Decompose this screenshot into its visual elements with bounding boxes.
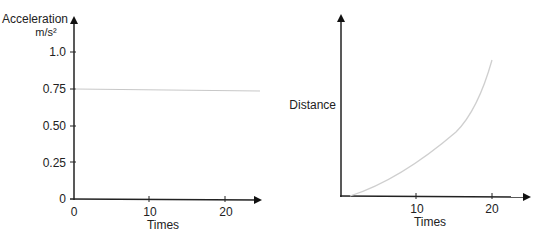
x-tick-20: 20 [219, 205, 233, 219]
distance-curve [350, 60, 492, 196]
x-axis-label: Times [147, 218, 179, 231]
y-tick-0: 0 [59, 192, 66, 206]
x-tick-10: 10 [410, 202, 424, 216]
charts-canvas: 1.0 0.75 0.50 0.25 0 0 10 20 Acceleratio… [0, 0, 533, 231]
x-axis [340, 196, 527, 197]
x-tick-10: 10 [143, 205, 157, 219]
x-axis-label: Times [414, 215, 446, 229]
y-tick-025: 0.25 [43, 156, 67, 170]
distance-chart: 10 20 Distance Times [289, 18, 527, 229]
acceleration-line [75, 89, 260, 91]
y-tick-050: 0.50 [43, 119, 67, 133]
y-axis-label: Acceleration [2, 12, 68, 26]
y-axis-unit: m/s² [35, 26, 57, 38]
y-tick-075: 0.75 [43, 82, 67, 96]
y-tick-1: 1.0 [49, 45, 66, 59]
x-tick-0: 0 [71, 205, 78, 219]
acceleration-chart: 1.0 0.75 0.50 0.25 0 0 10 20 Acceleratio… [2, 12, 260, 231]
x-axis [70, 199, 258, 200]
x-tick-20: 20 [485, 202, 499, 216]
y-axis-label: Distance [289, 98, 336, 112]
